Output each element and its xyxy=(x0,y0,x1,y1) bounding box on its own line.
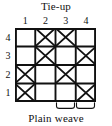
tie-up-grid-svg xyxy=(15,28,96,102)
cell-mark-r1-c4[interactable] xyxy=(76,84,95,101)
row-label-2: 2 xyxy=(2,65,14,84)
tie-up-figure: Tie-up 1 2 3 4 4 3 2 1 Plain weave xyxy=(0,0,112,126)
column-label-3: 3 xyxy=(56,14,76,27)
column-label-1: 1 xyxy=(15,14,35,27)
brace-column-4 xyxy=(77,103,95,109)
row-label-4: 4 xyxy=(2,28,14,47)
column-label-row: 1 2 3 4 xyxy=(15,14,96,27)
column-label-2: 2 xyxy=(35,14,55,27)
column-label-4: 4 xyxy=(76,14,96,27)
plain-weave-braces xyxy=(15,102,96,111)
tie-up-grid xyxy=(15,28,96,102)
cell-mark-r3-c4[interactable] xyxy=(76,47,95,64)
cell-mark-r2-c3[interactable] xyxy=(56,66,75,83)
figure-caption: Plain weave xyxy=(0,111,112,125)
figure-title: Tie-up xyxy=(0,0,112,13)
cell-mark-r4-c2[interactable] xyxy=(36,29,55,46)
row-label-1: 1 xyxy=(2,84,14,103)
cell-mark-r3-c2[interactable] xyxy=(36,47,55,64)
cell-mark-r2-c1[interactable] xyxy=(16,66,35,83)
row-label-column: 4 3 2 1 xyxy=(2,28,14,102)
brace-column-3 xyxy=(57,103,75,109)
cell-mark-r4-c3[interactable] xyxy=(56,29,75,46)
plain-weave-braces-svg xyxy=(15,102,96,111)
row-label-3: 3 xyxy=(2,47,14,66)
cell-mark-r1-c1[interactable] xyxy=(16,84,35,101)
